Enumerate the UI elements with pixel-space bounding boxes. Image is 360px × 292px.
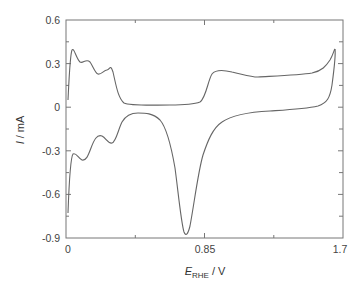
y-tick-label: 0.6 [45,14,60,26]
y-tick-label: 0.3 [45,58,60,70]
y-tick-label: -0.9 [42,232,60,244]
plot-frame [66,20,343,238]
x-axis-label: ERHE / V [185,265,226,280]
x-tick-label: 1.7 [333,243,348,255]
y-axis-label: I / mA [14,115,26,144]
cv-chart: 0.6 0.3 0 -0.3 -0.6 -0.9 0 0.85 1.7 ERHE… [0,0,360,292]
y-tick-label: -0.3 [42,145,60,157]
x-tick-labels: 0 0.85 1.7 [65,243,347,255]
cathodic-scan-curve [68,49,335,234]
x-tick-label: 0 [65,243,71,255]
y-tick-label: -0.6 [42,188,60,200]
anodic-scan-curve [68,49,335,105]
x-axis-ticks [135,20,273,238]
x-tick-label: 0.85 [195,243,216,255]
y-axis-ticks [66,42,343,216]
y-tick-label: 0 [54,101,60,113]
y-tick-labels: 0.6 0.3 0 -0.3 -0.6 -0.9 [42,14,60,244]
